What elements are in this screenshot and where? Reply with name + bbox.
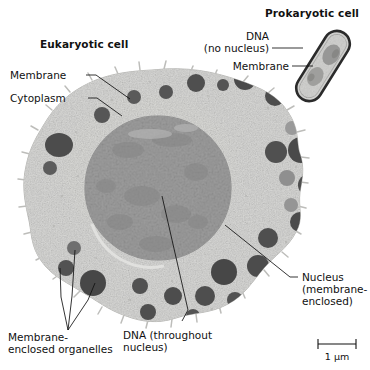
organelle xyxy=(284,198,298,212)
organelle xyxy=(43,161,57,175)
organelle xyxy=(279,170,295,186)
organelle xyxy=(140,304,156,320)
organelle xyxy=(67,241,81,255)
organelle xyxy=(94,107,110,123)
organelle xyxy=(45,133,73,157)
cytoplasm-label: Cytoplasm xyxy=(10,92,66,104)
nucleus-label-line1: Nucleus xyxy=(302,271,344,283)
dna-eukaryotic-label-line2: nucleus) xyxy=(123,341,168,353)
scale-bar-label: 1 μm xyxy=(325,351,349,362)
organelles-label-line2: enclosed organelles xyxy=(8,343,113,355)
organelle xyxy=(265,141,287,163)
nucleus-label-line3: enclosed) xyxy=(302,295,353,307)
prokaryotic-cell-title: Prokaryotic cell xyxy=(265,7,359,19)
organelle xyxy=(211,259,237,285)
cell-comparison-diagram: Eukaryotic cell Prokaryotic cell Membran… xyxy=(0,0,370,370)
nucleus-label-line2: (membrane- xyxy=(302,283,368,295)
dna-eukaryotic-label-line1: DNA (throughout xyxy=(123,329,212,341)
organelle xyxy=(258,228,278,248)
organelle xyxy=(132,278,148,294)
membrane-label: Membrane xyxy=(10,69,66,81)
dna-prokaryotic-label-line2: (no nucleus) xyxy=(204,42,269,54)
organelle xyxy=(80,270,106,296)
figure-canvas: Eukaryotic cell Prokaryotic cell Membran… xyxy=(0,0,370,370)
organelles-label-line1: Membrane- xyxy=(8,331,68,343)
membrane-prokaryotic-label: Membrane xyxy=(233,60,289,72)
dna-prokaryotic-label-line1: DNA xyxy=(246,30,270,42)
organelle xyxy=(164,287,182,305)
organelle xyxy=(159,85,173,99)
organelle xyxy=(217,79,229,91)
organelle xyxy=(195,286,215,306)
eukaryotic-cell-title: Eukaryotic cell xyxy=(40,38,129,50)
organelle xyxy=(127,90,141,104)
organelle xyxy=(187,74,205,92)
